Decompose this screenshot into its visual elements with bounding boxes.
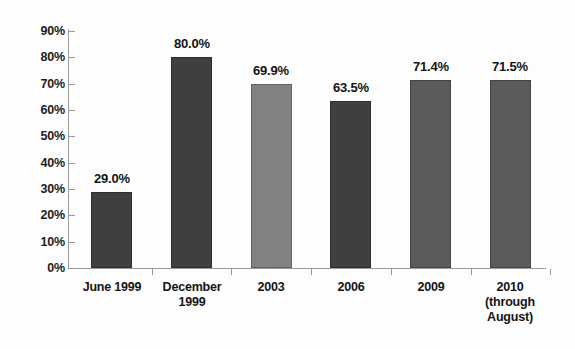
y-axis-tick-label: 70% xyxy=(23,78,65,91)
bar-value-label: 71.4% xyxy=(388,60,474,73)
y-axis-tick xyxy=(69,215,75,216)
x-axis-tick xyxy=(152,269,153,275)
category-label-line: 1999 xyxy=(146,295,238,310)
category-label-line: August) xyxy=(464,310,556,325)
bar-fill xyxy=(91,192,132,268)
y-axis-line xyxy=(68,29,69,269)
x-axis-category-label: June 1999 xyxy=(66,280,158,295)
category-label-line: June 1999 xyxy=(66,280,158,295)
bar xyxy=(91,192,132,268)
y-axis-tick xyxy=(69,242,75,243)
y-axis-tick xyxy=(69,189,75,190)
y-axis-tick xyxy=(69,268,75,269)
x-axis-tick xyxy=(311,269,312,275)
y-axis-tick-label: 20% xyxy=(23,209,65,222)
bar-value-label: 29.0% xyxy=(69,172,155,185)
bar-fill xyxy=(251,84,292,268)
y-axis-tick xyxy=(69,31,75,32)
category-label-line: 2003 xyxy=(225,280,317,295)
x-axis-category-label: 2003 xyxy=(225,280,317,295)
category-label-line: (through xyxy=(464,295,556,310)
y-axis-tick xyxy=(69,57,75,58)
x-axis-category-label: 2010(throughAugust) xyxy=(464,280,556,325)
x-axis-tick xyxy=(231,269,232,275)
y-axis-tick-label: 50% xyxy=(23,130,65,143)
bar-fill xyxy=(330,101,371,268)
bar xyxy=(330,101,371,268)
x-axis-tick xyxy=(391,269,392,275)
y-axis-tick-label: 40% xyxy=(23,157,65,170)
y-axis-tick-label: 90% xyxy=(23,25,65,38)
bar-value-label: 69.9% xyxy=(228,64,314,77)
bar-fill xyxy=(490,80,531,268)
bar-fill xyxy=(410,80,451,268)
category-label-line: 2010 xyxy=(464,280,556,295)
bar xyxy=(410,80,451,268)
y-axis-tick-label: 30% xyxy=(23,183,65,196)
y-axis-tick xyxy=(69,84,75,85)
bar xyxy=(251,84,292,268)
bar xyxy=(490,80,531,268)
y-axis-tick xyxy=(69,163,75,164)
bar-value-label: 63.5% xyxy=(308,81,394,94)
category-label-line: 2006 xyxy=(305,280,397,295)
bar-chart: 0%10%20%30%40%50%60%70%80%90% 29.0%80.0%… xyxy=(0,0,575,349)
y-axis-tick-label: 80% xyxy=(23,51,65,64)
bar-fill xyxy=(171,57,212,268)
x-axis-tick xyxy=(550,269,551,275)
bar-value-label: 71.5% xyxy=(467,60,553,73)
y-axis-tick-label: 0% xyxy=(23,262,65,275)
bar xyxy=(171,57,212,268)
bar-value-label: 80.0% xyxy=(149,37,235,50)
x-axis-category-label: 2006 xyxy=(305,280,397,295)
y-axis-tick-label: 10% xyxy=(23,236,65,249)
y-axis-tick xyxy=(69,136,75,137)
x-axis-tick xyxy=(471,269,472,275)
x-axis-line xyxy=(68,268,546,269)
y-axis-tick-label: 60% xyxy=(23,104,65,117)
y-axis-tick xyxy=(69,110,75,111)
